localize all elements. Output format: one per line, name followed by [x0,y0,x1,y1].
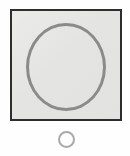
framed-square-panel[interactable] [10,9,122,121]
canvas-root [0,0,130,156]
small-circle-outline[interactable] [58,131,75,148]
large-circle-outline[interactable] [26,23,106,111]
